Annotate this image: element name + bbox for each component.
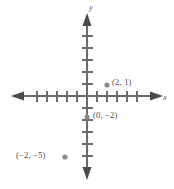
point-dot-2-1 [104,82,109,87]
x-axis-label: x [163,92,167,102]
axes-svg [0,0,174,189]
point-label-2-1: (2, 1) [112,77,132,87]
y-axis-arrow-up [83,13,92,26]
point-label-neg2-neg5: (−2, −5) [16,150,46,160]
x-axis-arrow-left [11,92,24,101]
x-axis-arrow-right [150,92,163,101]
point-dot-neg2-neg5 [62,154,67,159]
plotted-points [62,82,109,159]
coordinate-plane-figure: x y (2, 1) (0, −2) (−2, −5) [0,0,174,189]
y-axis-arrow-down [83,167,92,180]
point-dot-0-neg2 [84,114,89,119]
y-axis-label: y [89,2,93,12]
point-label-0-neg2: (0, −2) [93,110,118,120]
